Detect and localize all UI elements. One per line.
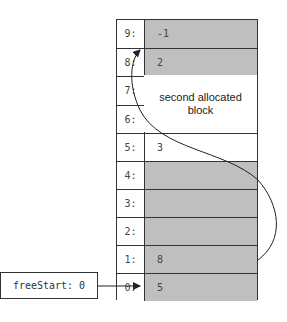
memory-row-2: 2: [117,217,257,245]
row-index: 5: [117,134,145,161]
memory-row-9: 9: -1 [117,20,257,48]
row-index: 1: [117,246,145,273]
memory-row-0: 0: 5 [117,273,257,301]
row-value: 2 [145,49,257,76]
memory-grid: 9: -1 8: 2 7: 6: 5: 3 4: 3: 2: 1: 8 0: 5 [116,19,258,300]
row-index: 0: [117,274,145,301]
block-label-line2: block [159,104,242,117]
row-index: 6: [117,105,145,133]
row-index: 8: [117,49,145,76]
memory-row-8: 8: 2 [117,48,257,76]
row-value [145,218,257,245]
row-value [145,162,257,189]
block-label-line1: second allocated [159,91,242,104]
row-index: 4: [117,162,145,189]
second-allocated-block-label: second allocated block [144,75,257,132]
memory-row-4: 4: [117,161,257,189]
row-index: 2: [117,218,145,245]
row-value: 5 [145,274,257,301]
row-value [145,190,257,217]
memory-row-3: 3: [117,189,257,217]
row-index: 7: [117,77,145,104]
row-value: -1 [145,20,257,48]
row-value: 3 [145,134,257,161]
memory-row-5: 5: 3 [117,133,257,161]
row-index: 3: [117,190,145,217]
row-index: 9: [117,20,145,48]
row-value: 8 [145,246,257,273]
free-start-pointer-box: freeStart: 0 [0,272,98,299]
memory-row-1: 1: 8 [117,245,257,273]
